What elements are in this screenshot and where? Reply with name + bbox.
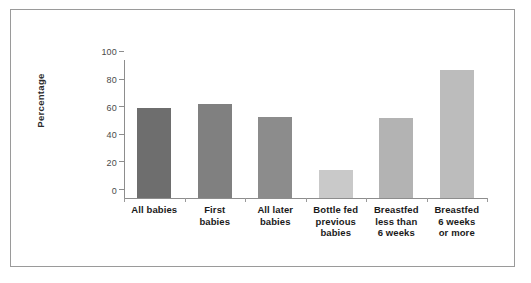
- y-tick-mark-100: [119, 51, 124, 52]
- x-label-bottle-fed-previous-babies: Bottle fed previous babies: [306, 204, 367, 239]
- y-tick-label-60: 60: [83, 103, 117, 113]
- x-label-all-babies: All babies: [124, 204, 185, 216]
- x-tick-mark-4: [366, 198, 367, 202]
- bar-all-later-babies[interactable]: [258, 117, 292, 198]
- x-tick-mark-1: [185, 198, 186, 202]
- x-tick-mark-2: [245, 198, 246, 202]
- x-label-first-babies: First babies: [185, 204, 246, 227]
- bar-series: [124, 60, 487, 198]
- y-tick-label-80: 80: [83, 75, 117, 85]
- x-label-breastfed-6-weeks-or-more: Breastfed 6 weeks or more: [427, 204, 488, 239]
- bar-slot-3: [245, 60, 306, 198]
- x-label-breastfed-more-line3: or more: [427, 227, 488, 239]
- y-axis-title: Percentage: [35, 61, 46, 141]
- chart-frame-border: Percentage 0 20 40 60 80 100: [10, 9, 515, 267]
- bar-slot-5: [366, 60, 427, 198]
- bar-slot-6: [427, 60, 488, 198]
- x-label-breastfed-less-line3: 6 weeks: [366, 227, 427, 239]
- y-tick-label-20: 20: [83, 158, 117, 168]
- bar-bottle-fed-previous-babies[interactable]: [319, 170, 353, 198]
- x-label-breastfed-more-line1: Breastfed: [427, 204, 488, 216]
- x-tick-mark-5: [427, 198, 428, 202]
- bar-slot-2: [185, 60, 246, 198]
- x-label-breastfed-less-line1: Breastfed: [366, 204, 427, 216]
- bar-all-babies[interactable]: [137, 108, 171, 198]
- x-label-all-later-babies-line2: babies: [245, 216, 306, 228]
- x-tick-mark-0: [124, 198, 125, 202]
- bar-breastfed-6-weeks-or-more[interactable]: [440, 70, 474, 198]
- x-label-all-later-babies-line1: All later: [245, 204, 306, 216]
- x-label-breastfed-more-line2: 6 weeks: [427, 216, 488, 228]
- bar-chart-figure: Percentage 0 20 40 60 80 100: [0, 0, 531, 283]
- x-label-bottle-fed-line2: previous: [306, 216, 367, 228]
- y-tick-label-0: 0: [83, 186, 117, 196]
- bar-slot-1: [124, 60, 185, 198]
- x-label-first-babies-line2: babies: [185, 216, 246, 228]
- x-label-breastfed-less-than-6-weeks: Breastfed less than 6 weeks: [366, 204, 427, 239]
- y-tick-label-100: 100: [83, 47, 117, 57]
- bar-first-babies[interactable]: [198, 104, 232, 198]
- x-tick-mark-3: [306, 198, 307, 202]
- y-tick-label-40: 40: [83, 130, 117, 140]
- bar-slot-4: [306, 60, 367, 198]
- x-label-all-babies-line1: All babies: [124, 204, 185, 216]
- x-label-bottle-fed-line1: Bottle fed: [306, 204, 367, 216]
- x-label-breastfed-less-line2: less than: [366, 216, 427, 228]
- x-label-bottle-fed-line3: babies: [306, 227, 367, 239]
- x-tick-mark-6: [487, 198, 488, 202]
- x-label-all-later-babies: All later babies: [245, 204, 306, 227]
- x-axis-tick-labels: All babies First babies All later babies…: [124, 204, 487, 264]
- y-axis-tick-labels: 0 20 40 60 80 100: [79, 10, 117, 283]
- bar-breastfed-less-than-6-weeks[interactable]: [379, 118, 413, 198]
- x-label-first-babies-line1: First: [185, 204, 246, 216]
